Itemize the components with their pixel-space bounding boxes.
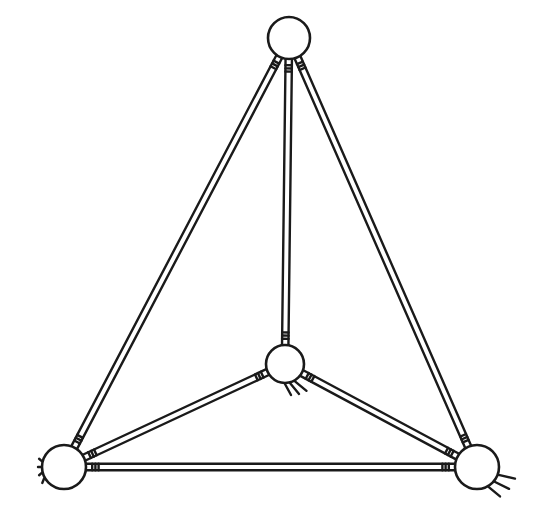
shadow-stroke-icon bbox=[39, 473, 42, 475]
joint-hatch-icon bbox=[463, 440, 469, 443]
joint-hatch-icon bbox=[445, 448, 448, 454]
joint-hatch-icon bbox=[77, 435, 83, 438]
shadow-stroke-icon bbox=[39, 459, 42, 461]
stick-top-bottom-left-side-b bbox=[77, 57, 283, 450]
joint-hatch-icon bbox=[74, 441, 80, 444]
joint-hatch-icon bbox=[297, 62, 303, 65]
shadow-stroke-icon bbox=[489, 487, 501, 497]
stick-center-bottom-right-side-a bbox=[299, 375, 457, 460]
joint-hatch-icon bbox=[451, 451, 454, 457]
joint-hatch-icon bbox=[258, 373, 261, 379]
tetrahedron-diagram bbox=[0, 0, 557, 531]
joint-hatch-icon bbox=[91, 451, 94, 457]
stick-top-center-side-b bbox=[288, 58, 292, 346]
joint-hatch-icon bbox=[272, 63, 278, 66]
joint-hatch-icon bbox=[309, 375, 312, 381]
shadow-stroke-icon bbox=[285, 384, 291, 395]
joint-hatch-icon bbox=[94, 449, 97, 455]
joint-hatch-icon bbox=[306, 373, 309, 379]
shadow-stroke-icon bbox=[495, 482, 509, 489]
joint-hatch-icon bbox=[460, 434, 466, 437]
stick-top-center-side-a bbox=[282, 58, 286, 346]
stick-top-bottom-right-side-b bbox=[300, 55, 472, 446]
joint-hatch-icon bbox=[271, 66, 277, 69]
stick-top-bottom-left-side-a bbox=[71, 54, 277, 447]
joint-hatch-icon bbox=[448, 449, 451, 455]
ball-node-top bbox=[268, 17, 310, 59]
diagram-canvas bbox=[0, 0, 557, 531]
shadow-stroke-icon bbox=[42, 479, 44, 484]
joint-hatch-icon bbox=[88, 452, 91, 458]
hatch-marks-group bbox=[38, 61, 515, 497]
joint-hatch-icon bbox=[300, 67, 306, 70]
joint-hatch-icon bbox=[255, 374, 258, 380]
stick-center-bottom-left-side-a bbox=[82, 369, 268, 456]
shadow-stroke-icon bbox=[499, 475, 515, 479]
joint-hatch-icon bbox=[298, 65, 304, 68]
ball-node-bottom-left bbox=[42, 445, 86, 489]
ball-node-bottom-right bbox=[455, 445, 499, 489]
stick-center-bottom-left-side-b bbox=[84, 375, 270, 462]
joint-hatch-icon bbox=[274, 61, 280, 64]
edges-group bbox=[71, 54, 472, 470]
joint-hatch-icon bbox=[261, 372, 264, 378]
joint-hatch-icon bbox=[76, 438, 82, 441]
nodes-group bbox=[42, 17, 499, 489]
stick-top-bottom-right-side-a bbox=[294, 58, 466, 449]
joint-hatch-icon bbox=[461, 437, 467, 440]
ball-node-center bbox=[266, 345, 304, 383]
joint-hatch-icon bbox=[311, 376, 314, 382]
